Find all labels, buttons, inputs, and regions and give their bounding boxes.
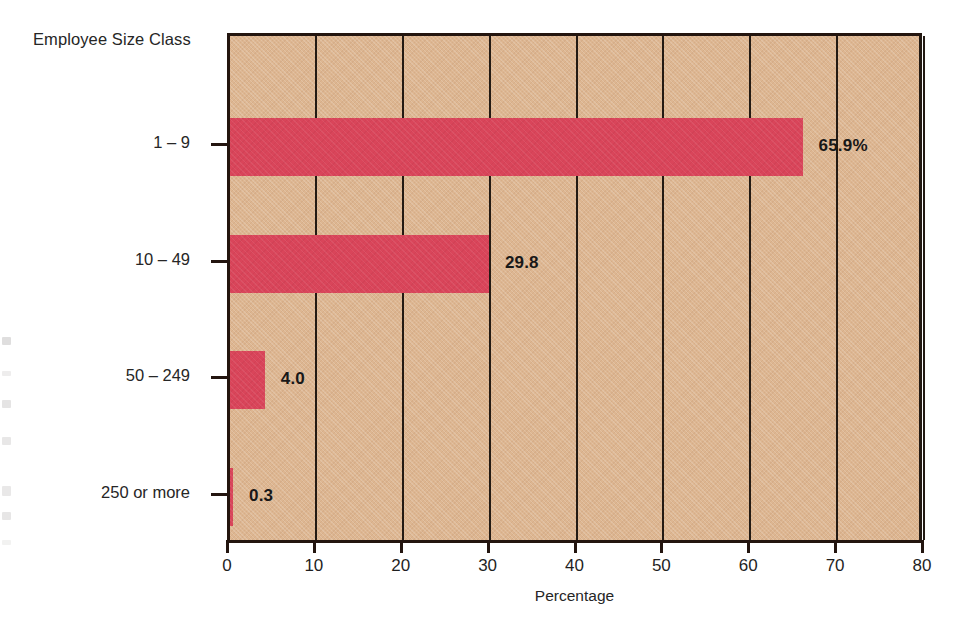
category-label: 10 – 49 bbox=[0, 250, 190, 270]
scan-artifact bbox=[2, 437, 11, 445]
x-axis-tick bbox=[313, 540, 316, 553]
scan-artifact bbox=[2, 512, 11, 520]
y-axis-title: Employee Size Class bbox=[33, 30, 191, 49]
x-axis-tick bbox=[834, 540, 837, 553]
category-label-text: 50 – 249 bbox=[126, 366, 190, 385]
scan-artifact bbox=[2, 337, 11, 345]
category-label-text: 10 – 49 bbox=[135, 250, 190, 269]
gridline bbox=[576, 36, 578, 540]
x-axis-tick-label: 20 bbox=[391, 556, 410, 576]
category-label: 50 – 249 bbox=[0, 366, 190, 386]
category-label: 250 or more bbox=[0, 483, 190, 503]
gridline bbox=[489, 36, 491, 540]
x-axis-tick-label: 60 bbox=[739, 556, 758, 576]
category-label-text: 1 – 9 bbox=[153, 133, 190, 152]
x-axis-tick bbox=[487, 540, 490, 553]
category-label: 1 – 9 bbox=[0, 133, 190, 153]
bar bbox=[230, 235, 489, 293]
bar-chart-figure: Employee Size Class 65.9%29.84.00.3 Perc… bbox=[0, 0, 964, 632]
bar-value-label: 0.3 bbox=[249, 486, 273, 506]
x-axis-tick bbox=[660, 540, 663, 553]
x-axis-tick-label: 50 bbox=[652, 556, 671, 576]
y-axis-tick bbox=[211, 493, 228, 496]
x-axis-tick-label: 30 bbox=[478, 556, 497, 576]
gridline bbox=[662, 36, 664, 540]
y-axis-tick bbox=[211, 376, 228, 379]
gridline bbox=[836, 36, 838, 540]
x-axis-title: Percentage bbox=[227, 587, 922, 605]
x-axis-tick bbox=[400, 540, 403, 553]
gridline bbox=[923, 36, 925, 540]
bar bbox=[230, 118, 803, 176]
bar-value-label: 65.9% bbox=[819, 136, 868, 156]
x-axis-tick-label: 0 bbox=[222, 556, 231, 576]
y-axis-tick bbox=[211, 143, 228, 146]
x-axis-tick bbox=[226, 540, 229, 553]
x-axis-tick-label: 70 bbox=[826, 556, 845, 576]
bar bbox=[230, 468, 233, 526]
bar bbox=[230, 351, 265, 409]
x-axis-tick bbox=[921, 540, 924, 553]
gridline bbox=[749, 36, 751, 540]
bar-value-label: 4.0 bbox=[281, 369, 305, 389]
x-axis-tick-label: 10 bbox=[304, 556, 323, 576]
category-label-text: 250 or more bbox=[101, 483, 190, 502]
x-axis-tick bbox=[747, 540, 750, 553]
scan-artifact bbox=[2, 400, 11, 408]
plot-area: 65.9%29.84.00.3 bbox=[227, 33, 922, 540]
x-axis-tick bbox=[574, 540, 577, 553]
y-axis-tick bbox=[211, 260, 228, 263]
bar-value-label: 29.8 bbox=[505, 253, 539, 273]
x-axis-tick-label: 40 bbox=[565, 556, 584, 576]
x-axis-tick-label: 80 bbox=[913, 556, 932, 576]
scan-artifact bbox=[2, 540, 11, 545]
